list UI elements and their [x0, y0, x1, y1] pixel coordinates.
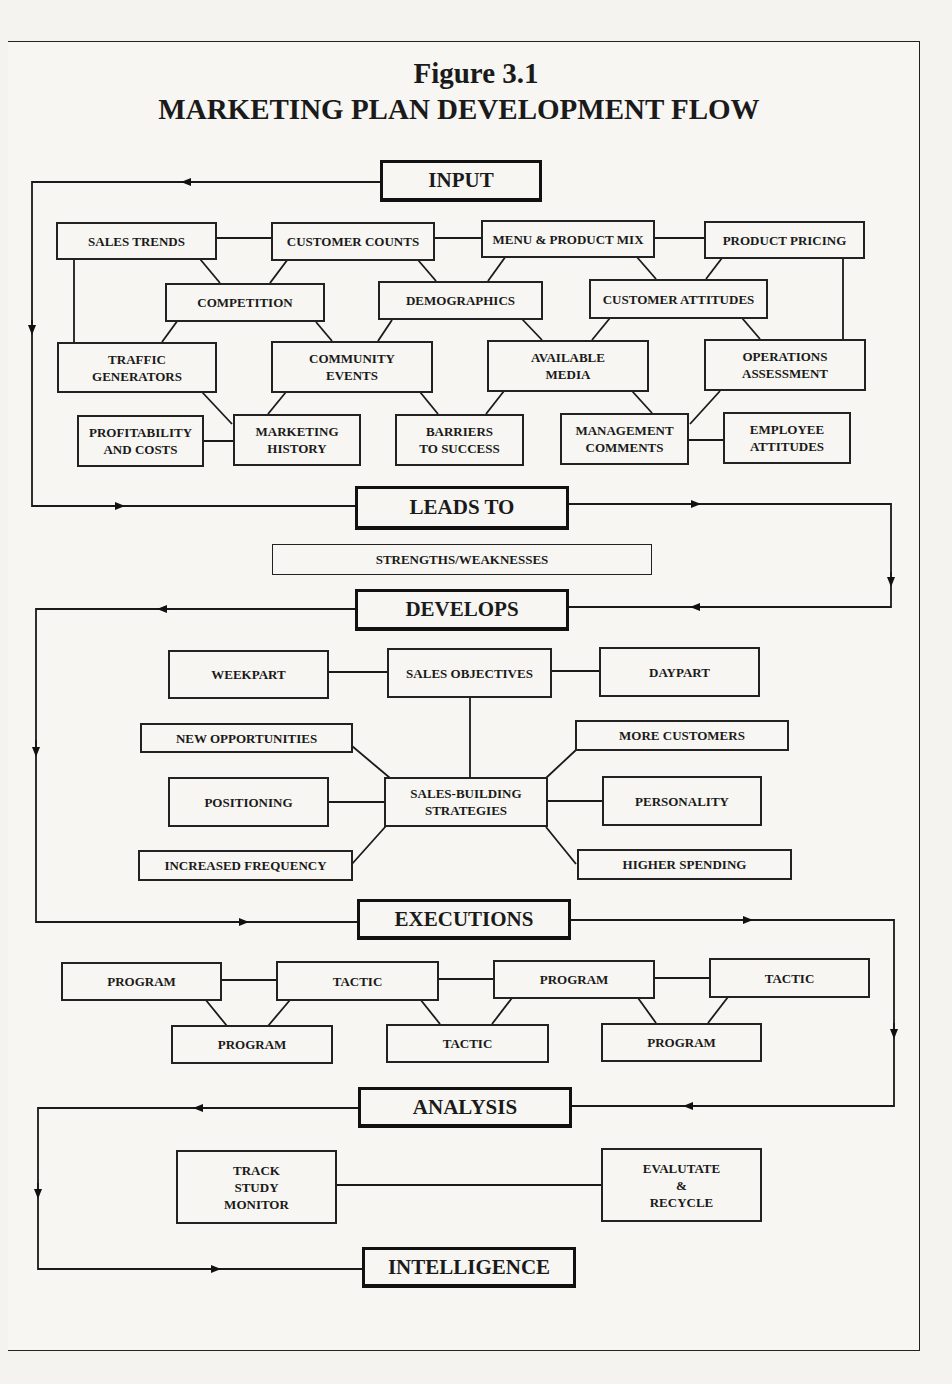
box-demographics: DEMOGRAPHICS	[378, 281, 543, 320]
box-track-study-monitor: TRACK STUDY MONITOR	[176, 1150, 337, 1224]
stage-input: INPUT	[380, 160, 542, 202]
box-sales-objectives: SALES OBJECTIVES	[387, 648, 552, 698]
box-program: PROGRAM	[171, 1025, 333, 1064]
box-new-opportunities: NEW OPPORTUNITIES	[140, 723, 353, 753]
box-tactic: TACTIC	[386, 1024, 549, 1063]
box-competition: COMPETITION	[165, 283, 325, 322]
box-tactic: TACTIC	[709, 958, 870, 998]
box-available-media: AVAILABLE MEDIA	[487, 340, 649, 392]
box-tactic: TACTIC	[276, 961, 439, 1001]
box-employee-attitudes: EMPLOYEE ATTITUDES	[723, 412, 851, 464]
box-customer-attitudes: CUSTOMER ATTITUDES	[589, 279, 768, 319]
box-personality: PERSONALITY	[602, 776, 762, 826]
box-increased-frequency: INCREASED FREQUENCY	[138, 850, 353, 881]
box-sales-building-strategies: SALES-BUILDING STRATEGIES	[384, 777, 548, 827]
box-sales-trends: SALES TRENDS	[56, 222, 217, 260]
box-evaluate-recycle: EVALUTATE & RECYCLE	[601, 1148, 762, 1222]
box-weekpart: WEEKPART	[168, 650, 329, 699]
box-menu-product-mix: MENU & PRODUCT MIX	[481, 220, 655, 258]
box-community-events: COMMUNITY EVENTS	[271, 341, 433, 393]
stage-intelligence: INTELLIGENCE	[362, 1247, 576, 1288]
box-traffic-generators: TRAFFIC GENERATORS	[57, 342, 217, 393]
box-product-pricing: PRODUCT PRICING	[704, 221, 865, 259]
box-higher-spending: HIGHER SPENDING	[577, 849, 792, 880]
box-profitability-costs: PROFITABILITY AND COSTS	[77, 415, 204, 467]
box-more-customers: MORE CUSTOMERS	[575, 720, 789, 751]
box-program: PROGRAM	[61, 962, 222, 1001]
box-positioning: POSITIONING	[168, 777, 329, 827]
stage-leads-to: LEADS TO	[355, 486, 569, 530]
box-program: PROGRAM	[493, 960, 655, 999]
stage-executions: EXECUTIONS	[357, 899, 571, 940]
box-barriers-to-success: BARRIERS TO SUCCESS	[395, 414, 524, 466]
stage-develops: DEVELOPS	[355, 589, 569, 631]
box-customer-counts: CUSTOMER COUNTS	[271, 222, 435, 261]
box-strengths-weaknesses: STRENGTHS/WEAKNESSES	[272, 544, 652, 575]
box-daypart: DAYPART	[599, 647, 760, 697]
box-operations-assessment: OPERATIONS ASSESSMENT	[704, 339, 866, 391]
box-management-comments: MANAGEMENT COMMENTS	[560, 413, 689, 465]
stage-analysis: ANALYSIS	[358, 1087, 572, 1128]
box-marketing-history: MARKETING HISTORY	[233, 414, 361, 466]
box-program: PROGRAM	[601, 1023, 762, 1062]
